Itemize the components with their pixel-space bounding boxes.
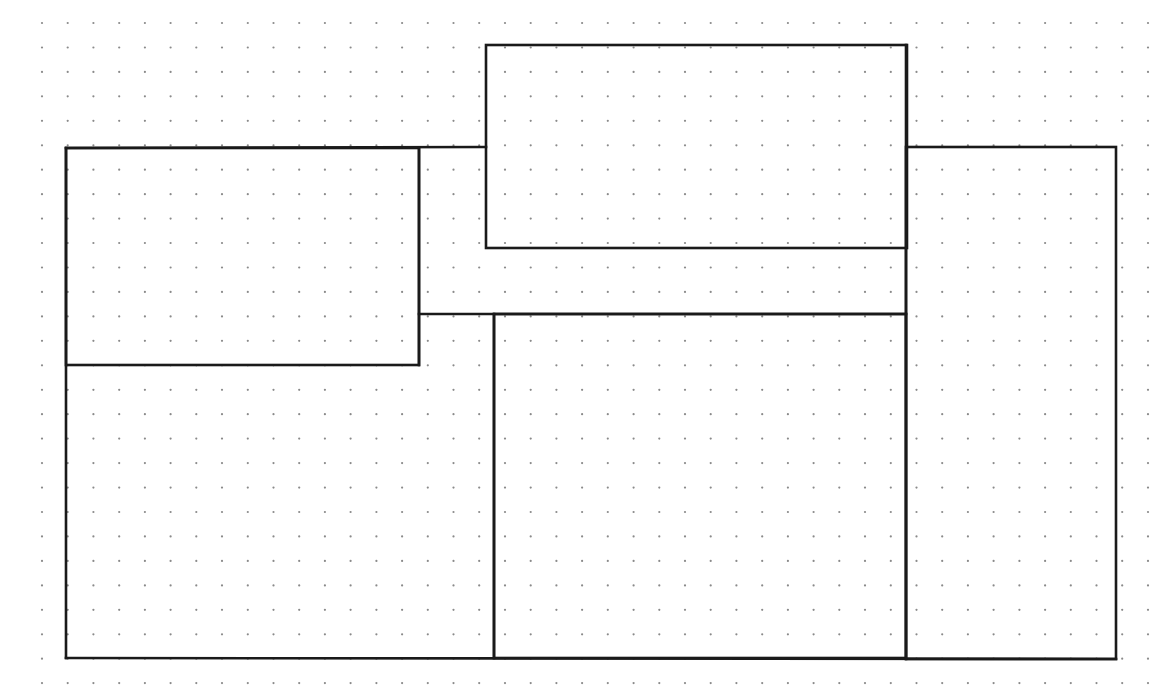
grid-dot [41,144,43,146]
grid-dot [890,242,892,244]
grid-dot [375,120,377,122]
grid-dot [1070,511,1072,513]
grid-dot [710,144,712,146]
grid-dot [401,242,403,244]
grid-dot [838,511,840,513]
grid-dot [1147,511,1149,513]
grid-dot [401,22,403,24]
grid-dot [787,584,789,586]
grid-dot [1070,682,1072,684]
grid-dot [144,22,146,24]
grid-dot [92,193,94,195]
grid-dot [787,609,789,611]
grid-dot [838,95,840,97]
grid-dot [375,218,377,220]
grid-dot [581,438,583,440]
grid-dot [1018,682,1020,684]
grid-dot [967,535,969,537]
grid-dot [633,535,635,537]
grid-dot [41,487,43,489]
grid-dot [735,315,737,317]
grid-dot [530,169,532,171]
grid-dot [710,413,712,415]
grid-dot [684,535,686,537]
grid-dot [915,120,917,122]
grid-dot [1121,633,1123,635]
grid-dot [658,584,660,586]
grid-dot [761,682,763,684]
grid-dot [658,120,660,122]
grid-dot [993,218,995,220]
grid-dot [813,389,815,391]
grid-dot [710,340,712,342]
grid-dot [272,291,274,293]
grid-dot [478,487,480,489]
grid-dot [1070,364,1072,366]
grid-dot [298,266,300,268]
grid-dot [1044,462,1046,464]
grid-dot [452,413,454,415]
grid-dot [195,609,197,611]
grid-dot [170,71,172,73]
grid-dot [298,535,300,537]
grid-dot [221,438,223,440]
grid-dot [1147,242,1149,244]
grid-dot [710,535,712,537]
grid-dot [375,511,377,513]
grid-dot [941,291,943,293]
grid-dot [607,535,609,537]
grid-dot [350,535,352,537]
grid-dot [890,193,892,195]
grid-dot [221,169,223,171]
grid-dot [761,413,763,415]
grid-dot [607,633,609,635]
grid-dot [452,609,454,611]
grid-dot [144,389,146,391]
grid-dot [298,462,300,464]
grid-dot [1044,95,1046,97]
grid-dot [401,95,403,97]
grid-dot [92,144,94,146]
grid-dot [1121,658,1123,660]
outer-top-left-edge [66,147,486,148]
grid-dot [272,169,274,171]
grid-dot [195,291,197,293]
grid-dot [710,193,712,195]
grid-dot [1121,71,1123,73]
grid-dot [735,511,737,513]
grid-dot [221,46,223,48]
grid-dot [272,46,274,48]
grid-dot [864,266,866,268]
grid-dot [838,633,840,635]
grid-dot [170,193,172,195]
grid-dot [710,315,712,317]
grid-dot [195,413,197,415]
grid-dot [144,71,146,73]
grid-dot [607,413,609,415]
grid-dot [633,193,635,195]
grid-dot [221,487,223,489]
grid-dot [92,511,94,513]
grid-dot [92,487,94,489]
grid-dot [1070,609,1072,611]
grid-dot [684,633,686,635]
grid-dot [1044,120,1046,122]
grid-dot [607,315,609,317]
grid-dot [350,120,352,122]
grid-dot [864,413,866,415]
grid-dot [530,291,532,293]
grid-dot [350,71,352,73]
grid-dot [761,462,763,464]
grid-dot [324,315,326,317]
grid-dot [375,633,377,635]
grid-dot [993,609,995,611]
grid-dot [221,193,223,195]
grid-dot [324,22,326,24]
grid-dot [658,364,660,366]
grid-dot [607,22,609,24]
grid-dot [401,340,403,342]
grid-dot [633,95,635,97]
grid-dot [1070,462,1072,464]
grid-dot [478,340,480,342]
grid-dot [272,389,274,391]
